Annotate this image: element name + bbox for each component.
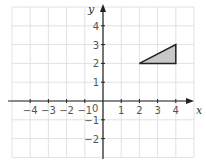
y-tick-label: 4: [93, 21, 99, 32]
coordinate-plane: −4−3−2−112344321−1−2 x y 0: [0, 0, 206, 162]
x-axis-arrow-icon: [186, 98, 194, 104]
x-tick-label: −3: [41, 105, 56, 116]
x-tick-label: 1: [118, 105, 124, 116]
y-tick-label: 1: [93, 77, 99, 88]
y-tick-label: −1: [84, 115, 99, 126]
y-tick-label: 2: [93, 58, 99, 69]
x-tick-label: 4: [173, 105, 179, 116]
axes: [8, 4, 194, 159]
x-tick-label: 3: [154, 105, 160, 116]
x-tick-label: 2: [136, 105, 142, 116]
x-tick-label: −4: [23, 105, 38, 116]
origin-label: 0: [92, 103, 98, 114]
y-axis-arrow-icon: [100, 4, 106, 12]
y-tick-label: −2: [84, 134, 99, 145]
x-axis-label: x: [196, 104, 203, 117]
x-tick-label: −2: [59, 105, 74, 116]
y-axis-label: y: [87, 3, 95, 16]
y-tick-label: 3: [93, 40, 99, 51]
